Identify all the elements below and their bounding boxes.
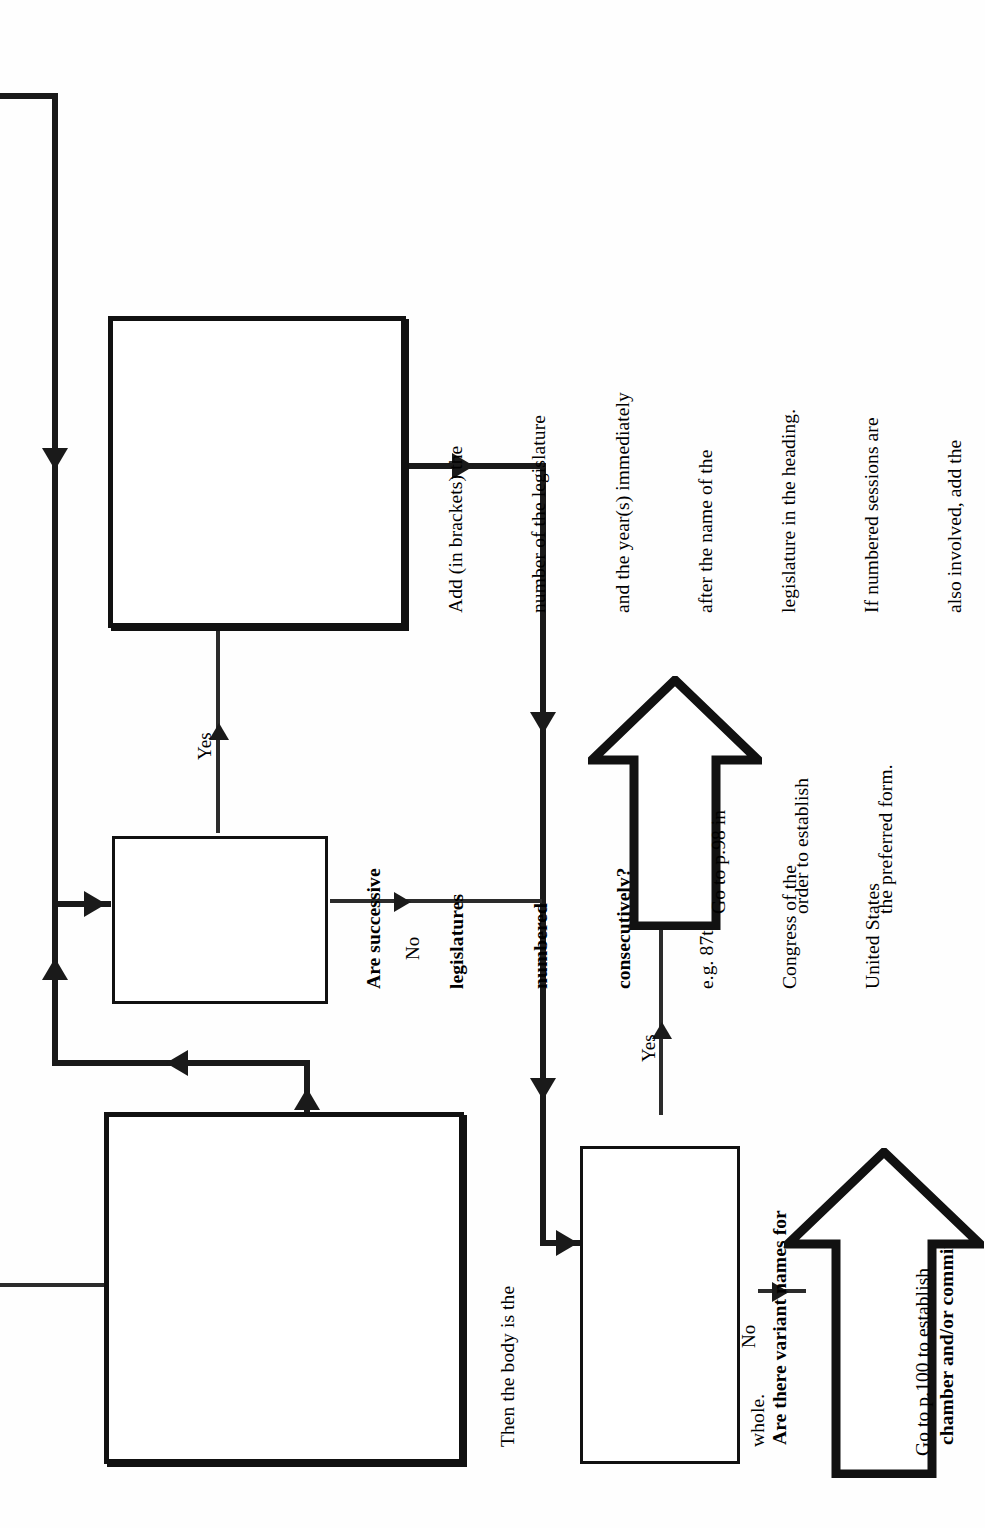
arrowhead-center-rail-down-2 [530, 1078, 556, 1100]
line: after the name of the [692, 333, 720, 613]
line: numbered [527, 839, 555, 989]
arrowhead-left-rail-up [42, 958, 68, 980]
connector-bottom-left-entry [0, 1283, 104, 1287]
line: Then the body is the [494, 1127, 522, 1447]
arrowhead-into-return-line [294, 1088, 320, 1110]
arrowhead-return-left [166, 1050, 188, 1076]
go-to-p100-text: Go to p.100 to establish if any addition… [854, 1240, 985, 1456]
arrowhead-into-successive-box [84, 891, 106, 917]
line: the preferred form. [872, 754, 900, 914]
connector-left-rail-lower [52, 905, 58, 1065]
variant-names-decision[interactable]: Are there variant names for the legislat… [580, 1146, 740, 1464]
line: legislature in the heading. [775, 333, 803, 613]
edge-label-variant-no: No [736, 1325, 763, 1348]
line: number of the legislature [525, 333, 553, 613]
connector-left-rail-upper [52, 460, 58, 910]
connector-top-entry-horizontal [0, 93, 58, 99]
flowchart-page: Add (in brackets) the number of the legi… [0, 0, 985, 1528]
connector-top-entry-vertical [52, 93, 58, 473]
add-in-brackets-text: Add (in brackets) the number of the legi… [387, 333, 985, 613]
line: Are successive [360, 839, 388, 989]
edge-label-variant-yes: Yes [636, 1034, 663, 1062]
body-is-legislature-box[interactable]: Then the body is the legislature conside… [104, 1112, 464, 1464]
line: If numbered sessions are [858, 333, 886, 613]
go-to-p98-text: Go to p.98 in order to establish the pre… [650, 754, 955, 914]
go-to-p98-block-arrow[interactable]: Go to p.98 in order to establish the pre… [588, 676, 762, 930]
line: also involved, add the [941, 333, 969, 613]
edge-label-successive-yes: Yes [192, 732, 219, 760]
line: and the year(s) immediately [609, 333, 637, 613]
successive-legislatures-decision[interactable]: Are successive legislatures numbered con… [112, 836, 328, 1004]
add-in-brackets-box[interactable]: Add (in brackets) the number of the legi… [108, 316, 406, 628]
line: Go to p.100 to establish [909, 1240, 937, 1456]
line: legislatures [443, 839, 471, 989]
line: order to establish [788, 754, 816, 914]
go-to-p100-block-arrow[interactable]: Go to p.100 to establish if any addition… [784, 1148, 984, 1478]
line: Go to p.98 in [705, 754, 733, 914]
edge-label-successive-no: No [400, 937, 427, 960]
line: Add (in brackets) the [442, 333, 470, 613]
